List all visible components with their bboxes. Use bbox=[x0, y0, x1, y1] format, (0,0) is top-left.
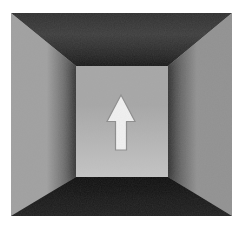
page bbox=[0, 0, 245, 229]
box-corridor-photo bbox=[11, 13, 232, 216]
corridor-scene bbox=[11, 13, 232, 216]
arrow-up-shape bbox=[107, 95, 135, 150]
arrow-up-icon bbox=[11, 13, 232, 216]
